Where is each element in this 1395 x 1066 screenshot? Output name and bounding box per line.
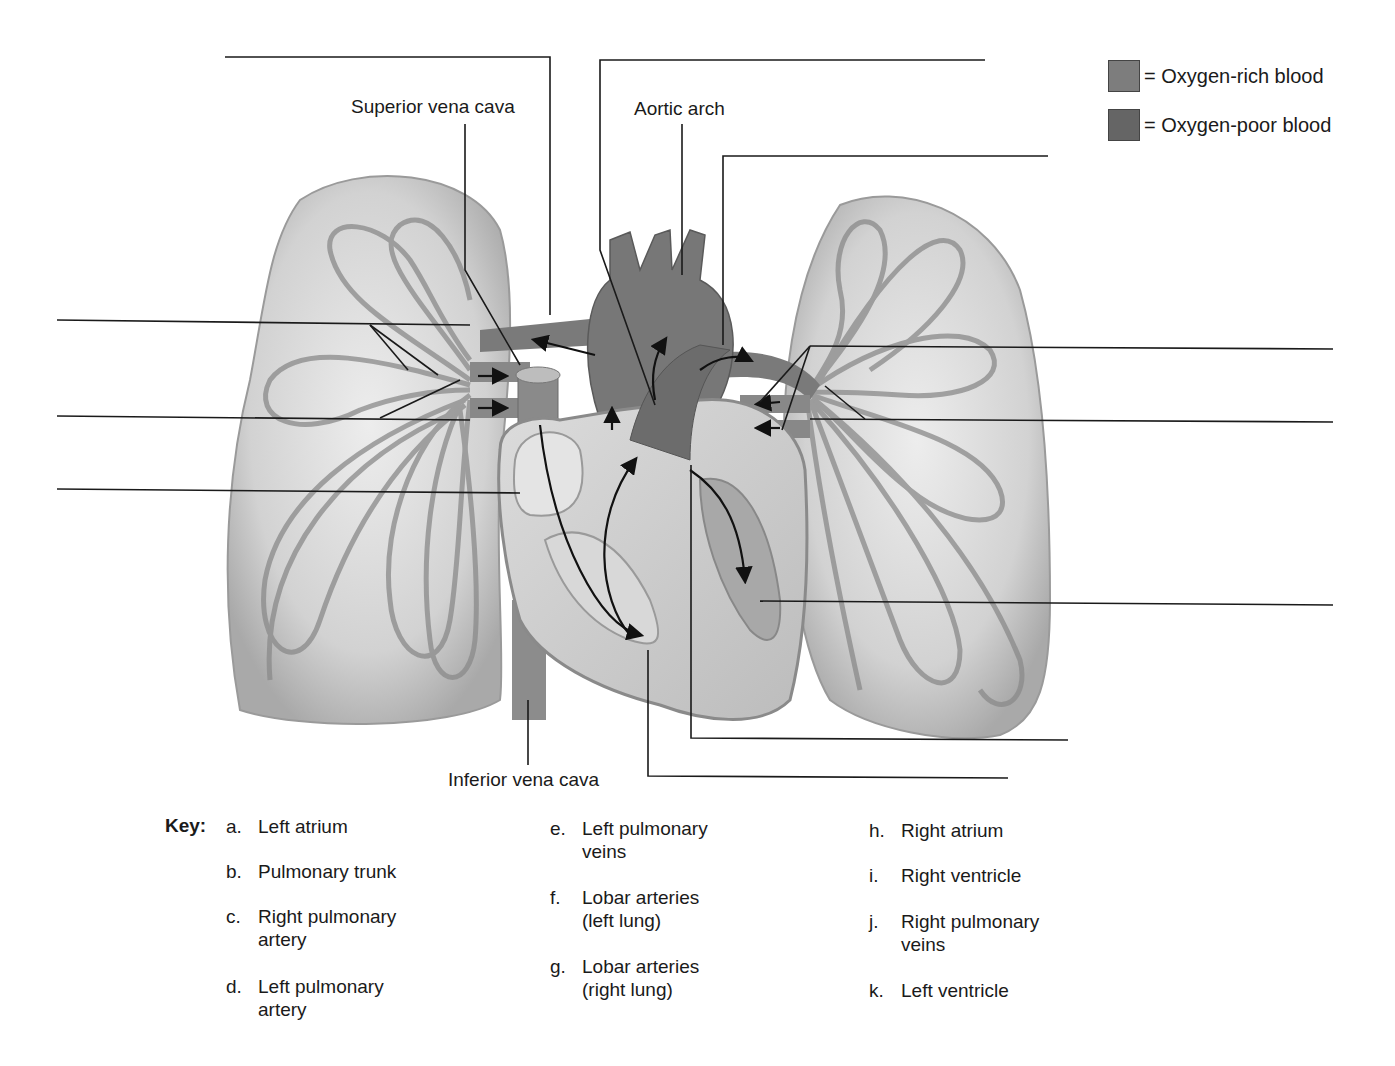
key-text: Right pulmonary veins (901, 910, 1061, 956)
key-item-j: j. Right pulmonary veins (869, 910, 1061, 956)
key-text: Left atrium (258, 815, 428, 838)
key-item-d: d. Left pulmonary artery (226, 975, 408, 1021)
key-item-f: f. Lobar arteries (left lung) (550, 886, 717, 932)
key-text: Left pulmonary veins (582, 817, 732, 863)
key-text: Left pulmonary artery (258, 975, 408, 1021)
key-item-e: e. Left pulmonary veins (550, 817, 732, 863)
key-letter: k. (869, 979, 901, 1002)
key-item-h: h. Right atrium (869, 819, 1071, 842)
key-item-k: k. Left ventricle (869, 979, 1071, 1002)
key-letter: i. (869, 864, 901, 887)
key-item-i: i. Right ventricle (869, 864, 1071, 887)
label-superior-vena-cava: Superior vena cava (351, 96, 515, 118)
key-text: Right atrium (901, 819, 1071, 842)
key-item-b: b. Pulmonary trunk (226, 860, 428, 883)
label-aortic-arch: Aortic arch (634, 98, 725, 120)
key-letter: e. (550, 817, 582, 863)
label-inferior-vena-cava: Inferior vena cava (448, 769, 599, 791)
key-letter: j. (869, 910, 901, 956)
oxygen-rich-swatch (1108, 60, 1140, 92)
key-title: Key: (165, 815, 206, 837)
key-item-a: a. Left atrium (226, 815, 428, 838)
key-text: Left ventricle (901, 979, 1071, 1002)
key-letter: h. (869, 819, 901, 842)
legend-oxygen-rich: = Oxygen-rich blood (1108, 60, 1324, 92)
key-letter: a. (226, 815, 258, 838)
legend-oxygen-rich-label: = Oxygen-rich blood (1144, 65, 1324, 88)
oxygen-poor-swatch (1108, 109, 1140, 141)
key-letter: f. (550, 886, 582, 932)
key-letter: d. (226, 975, 258, 1021)
key-text: Right pulmonary artery (258, 905, 418, 951)
legend-oxygen-poor-label: = Oxygen-poor blood (1144, 114, 1331, 137)
key-text: Lobar arteries (right lung) (582, 955, 717, 1001)
key-text: Lobar arteries (left lung) (582, 886, 717, 932)
right-lung (228, 176, 510, 724)
key-text: Pulmonary trunk (258, 860, 428, 883)
legend-oxygen-poor: = Oxygen-poor blood (1108, 109, 1331, 141)
key-item-c: c. Right pulmonary artery (226, 905, 418, 951)
key-letter: g. (550, 955, 582, 1001)
key-letter: c. (226, 905, 258, 951)
key-item-g: g. Lobar arteries (right lung) (550, 955, 717, 1001)
key-letter: b. (226, 860, 258, 883)
key-text: Right ventricle (901, 864, 1071, 887)
left-lung (784, 196, 1050, 738)
